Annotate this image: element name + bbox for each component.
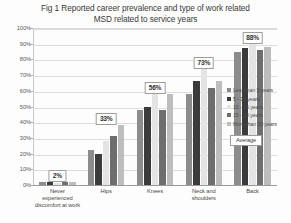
legend-swatch-icon bbox=[227, 113, 231, 117]
bar-group: 56% bbox=[131, 28, 180, 185]
bar bbox=[110, 136, 117, 185]
bar bbox=[54, 183, 61, 185]
bar bbox=[216, 81, 223, 185]
y-axis-tick-mark bbox=[30, 185, 33, 186]
y-axis: 0%10%20%30%40%50%60%70%80%90%100% bbox=[0, 28, 31, 185]
bar bbox=[39, 182, 46, 185]
bar bbox=[167, 94, 174, 185]
bar bbox=[88, 150, 95, 185]
bar-set bbox=[179, 28, 228, 185]
legend-item-label: 15 - 20 years bbox=[233, 112, 263, 118]
legend-item[interactable]: 10 - 15 years bbox=[227, 103, 287, 111]
bar bbox=[103, 141, 110, 185]
bar bbox=[144, 107, 151, 186]
bar bbox=[62, 182, 69, 185]
average-data-label: 33% bbox=[96, 113, 117, 125]
legend-item-label: More than 20 years bbox=[233, 121, 277, 127]
y-axis-tick-label: 60% bbox=[3, 88, 31, 94]
bar bbox=[208, 88, 215, 185]
bar bbox=[201, 69, 208, 185]
bar bbox=[47, 182, 54, 185]
bar-set bbox=[131, 28, 180, 185]
average-data-label: 56% bbox=[145, 82, 166, 94]
y-axis-tick-label: 40% bbox=[3, 119, 31, 125]
average-data-label: 88% bbox=[242, 32, 263, 44]
legend-item-label: Less than 5 years bbox=[233, 87, 273, 93]
y-axis-tick-label: 0% bbox=[3, 182, 31, 188]
bar-group: 33% bbox=[82, 28, 131, 185]
chart-screenshot: Fig 1 Reported career prevalence and typ… bbox=[0, 0, 291, 223]
y-axis-tick-label: 90% bbox=[3, 41, 31, 47]
bar bbox=[69, 182, 76, 185]
bar bbox=[95, 154, 102, 185]
x-axis-category-label: Neck and shoulders bbox=[179, 188, 228, 209]
average-data-label: 2% bbox=[49, 170, 66, 182]
average-data-label: 73% bbox=[193, 57, 214, 69]
legend-swatch-icon bbox=[227, 105, 231, 109]
bar bbox=[159, 110, 166, 185]
y-axis-tick-label: 70% bbox=[3, 72, 31, 78]
y-axis-tick-label: 30% bbox=[3, 135, 31, 141]
y-axis-tick-label: 50% bbox=[3, 104, 31, 110]
bar bbox=[118, 125, 125, 185]
x-axis-category-label: Back bbox=[228, 188, 277, 209]
legend-item-label: 5 - 10 years bbox=[233, 96, 260, 102]
y-axis-tick-label: 10% bbox=[3, 166, 31, 172]
legend-average-label: Average bbox=[230, 135, 262, 146]
bar-set bbox=[82, 28, 131, 185]
bar bbox=[137, 110, 144, 185]
x-axis-line bbox=[33, 185, 277, 186]
x-axis-category-label: Never experienced discomfort at work bbox=[33, 188, 82, 209]
chart-title: Fig 1 Reported career prevalence and typ… bbox=[18, 3, 273, 24]
y-axis-tick-label: 80% bbox=[3, 56, 31, 62]
x-axis-category-label: Hips bbox=[82, 188, 131, 209]
legend-swatch-icon bbox=[227, 122, 231, 126]
legend-item[interactable]: More than 20 years bbox=[227, 120, 287, 128]
legend-item[interactable]: 5 - 10 years bbox=[227, 94, 287, 102]
legend-item-label: 10 - 15 years bbox=[233, 104, 263, 110]
y-axis-tick-label: 20% bbox=[3, 151, 31, 157]
x-axis-category-label: Knees bbox=[131, 188, 180, 209]
bar-group: 73% bbox=[179, 28, 228, 185]
bar bbox=[193, 81, 200, 185]
chart-legend: Less than 5 years5 - 10 years10 - 15 yea… bbox=[227, 86, 287, 146]
y-axis-tick-label: 100% bbox=[3, 25, 31, 31]
chart-title-line-2: MSD related to service years bbox=[18, 14, 273, 25]
bar-group: 2% bbox=[33, 28, 82, 185]
bar bbox=[186, 94, 193, 185]
bar-set bbox=[33, 28, 82, 185]
x-axis-labels: Never experienced discomfort at workHips… bbox=[33, 188, 277, 209]
chart-title-line-1: Fig 1 Reported career prevalence and typ… bbox=[41, 3, 250, 13]
bar bbox=[152, 94, 159, 185]
legend-item[interactable]: Less than 5 years bbox=[227, 86, 287, 94]
legend-swatch-icon bbox=[227, 88, 231, 92]
legend-item[interactable]: 15 - 20 years bbox=[227, 111, 287, 119]
legend-swatch-icon bbox=[227, 97, 231, 101]
